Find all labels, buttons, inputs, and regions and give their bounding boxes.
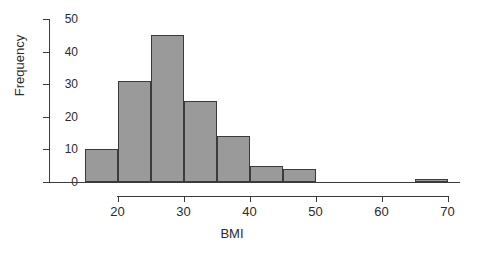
x-tick-mark <box>316 196 317 202</box>
x-tick-label: 20 <box>98 204 138 219</box>
x-tick-mark <box>448 196 449 202</box>
x-tick-mark <box>118 196 119 202</box>
plot-area <box>50 19 460 182</box>
histogram-bar <box>283 169 316 182</box>
x-axis-line <box>117 196 448 197</box>
histogram-bar <box>85 149 118 182</box>
histogram-bar <box>118 81 151 182</box>
x-tick-label: 40 <box>230 204 270 219</box>
histogram-figure: 01020304050 Frequency 203040506070 BMI <box>0 0 480 253</box>
histogram-bar <box>151 35 184 182</box>
x-tick-mark <box>184 196 185 202</box>
x-tick-label: 30 <box>164 204 204 219</box>
x-tick-mark <box>382 196 383 202</box>
x-tick-label: 70 <box>428 204 468 219</box>
histogram-bar <box>250 166 283 182</box>
x-axis-title: BMI <box>0 226 464 241</box>
histogram-bar <box>217 136 250 182</box>
x-tick-label: 50 <box>296 204 336 219</box>
histogram-bar <box>184 101 217 183</box>
x-tick-mark <box>250 196 251 202</box>
plot-baseline <box>49 182 460 183</box>
x-tick-label: 60 <box>362 204 402 219</box>
y-axis-title: Frequency <box>12 11 27 121</box>
